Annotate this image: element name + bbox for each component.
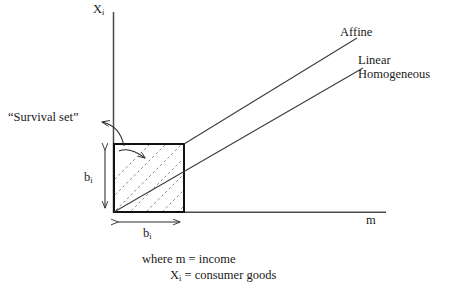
interior-curved-arrow bbox=[119, 150, 145, 158]
figure-canvas: Xi m Affine Linear Homogeneous “Survival… bbox=[0, 0, 452, 298]
caption-income-line: where m = income bbox=[142, 252, 235, 266]
y-axis-label-sub: i bbox=[102, 7, 104, 17]
linear-homogeneous-label-line1: Linear bbox=[358, 53, 430, 67]
affine-curve-label: Affine bbox=[340, 25, 372, 39]
linear-homogeneous-label-line2: Homogeneous bbox=[358, 67, 430, 81]
y-axis-label: Xi bbox=[93, 2, 104, 16]
caption-goods-symbol: X bbox=[170, 268, 179, 282]
box-width-label-sub: i bbox=[149, 231, 151, 241]
caption-goods-line: Xi = consumer goods bbox=[170, 268, 276, 282]
linear-homogeneous-curve-label: Linear Homogeneous bbox=[358, 53, 430, 81]
linear-homogeneous-ray bbox=[114, 68, 363, 212]
x-axis-label: m bbox=[366, 213, 376, 227]
y-axis-label-main: X bbox=[93, 2, 102, 16]
affine-ray bbox=[184, 38, 357, 144]
survival-set-label: “Survival set” bbox=[8, 110, 78, 124]
caption-goods-text: = consumer goods bbox=[181, 268, 276, 282]
box-height-label-sub: i bbox=[90, 175, 92, 185]
box-height-label: bi bbox=[84, 170, 93, 184]
box-width-label: bi bbox=[143, 226, 152, 240]
survival-set-hatching bbox=[89, 114, 268, 293]
